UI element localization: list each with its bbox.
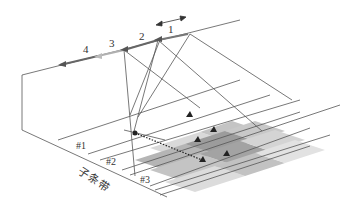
position-label-3: 3 (109, 38, 115, 49)
subband-label-2: #2 (106, 157, 116, 167)
position-label-1: 1 (168, 24, 174, 35)
position-label-4: 4 (83, 44, 89, 55)
subband-label-1: #1 (76, 141, 86, 151)
diagram-canvas: 4 3 2 1 #1 #2 #3 子条带 (0, 0, 341, 215)
arrow-marker-4 (58, 61, 66, 67)
position-label-2: 2 (139, 31, 145, 42)
subband-label-3: #3 (140, 175, 150, 185)
